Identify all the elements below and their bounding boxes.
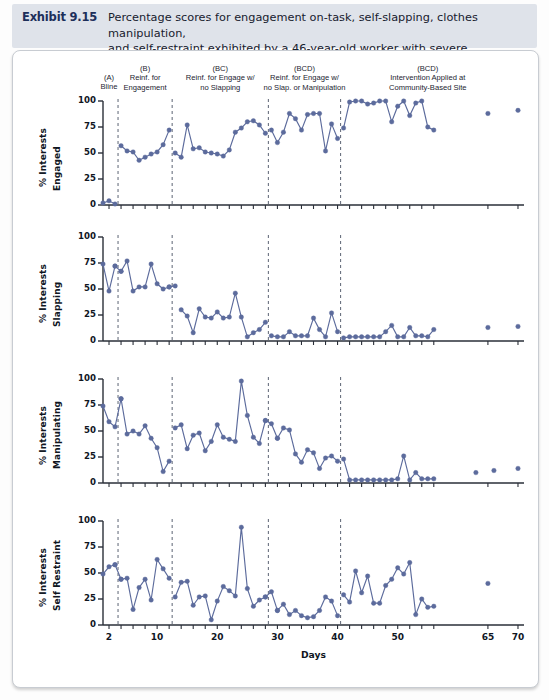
phase-name-4: Intervention Applied at xyxy=(390,73,465,82)
y-tick-label-2-50: 50 xyxy=(63,425,96,435)
x-tick-label-50: 50 xyxy=(382,632,414,642)
y-axis-title-line2-3: Self Restraint xyxy=(52,540,62,611)
y-tick-label-3-25: 25 xyxy=(63,593,96,603)
y-tick-label-0-0: 0 xyxy=(63,199,96,209)
y-tick-label-3-0: 0 xyxy=(63,619,96,629)
phase-name-1: Reinf. for xyxy=(130,73,161,82)
phase-code-3: (BCD) xyxy=(244,64,364,73)
x-tick-label-70: 70 xyxy=(502,632,534,642)
phase-name2-3: no Slap. or Manipulation xyxy=(264,83,346,92)
x-tick-label-20: 20 xyxy=(201,632,233,642)
x-tick-label-40: 40 xyxy=(322,632,354,642)
x-tick-label-30: 30 xyxy=(261,632,293,642)
y-axis-title-line1-0: % Interests xyxy=(38,128,48,187)
phase-name2-2: no Slapping xyxy=(200,83,240,92)
phase-name2-4: Community-Based Site xyxy=(389,83,467,92)
x-tick-label-65: 65 xyxy=(472,632,504,642)
y-tick-label-1-50: 50 xyxy=(63,283,96,293)
y-tick-label-2-100: 100 xyxy=(63,373,96,383)
y-tick-label-0-75: 75 xyxy=(63,121,96,131)
y-tick-label-1-75: 75 xyxy=(63,257,96,267)
phase-heading-3: (BCD)Reinf. for Engage w/no Slap. or Man… xyxy=(244,64,364,92)
x-axis-title: Days xyxy=(292,649,336,660)
phase-name-3: Reinf. for Engage w/ xyxy=(270,73,339,82)
y-tick-label-3-50: 50 xyxy=(63,567,96,577)
y-tick-label-1-25: 25 xyxy=(63,309,96,319)
y-tick-label-2-0: 0 xyxy=(63,477,96,487)
y-tick-label-0-25: 25 xyxy=(63,173,96,183)
y-tick-label-0-50: 50 xyxy=(63,147,96,157)
y-tick-label-0-100: 100 xyxy=(63,95,96,105)
y-tick-label-1-100: 100 xyxy=(63,231,96,241)
y-axis-title-line2-2: Manipulating xyxy=(52,401,62,469)
x-tick-label-10: 10 xyxy=(141,632,173,642)
y-tick-label-3-100: 100 xyxy=(63,515,96,525)
y-axis-title-line1-3: % Interests xyxy=(38,548,48,607)
y-tick-label-1-0: 0 xyxy=(63,335,96,345)
exhibit-banner: Exhibit 9.15 Percentage scores for engag… xyxy=(12,4,537,48)
y-axis-title-line2-1: Slapping xyxy=(52,282,62,327)
phase-heading-4: (BCD)Intervention Applied atCommunity-Ba… xyxy=(368,64,488,92)
y-axis-title-line2-0: Engaged xyxy=(52,146,62,191)
y-axis-title-line1-2: % Interests xyxy=(38,406,48,465)
x-tick-label-2: 2 xyxy=(93,632,125,642)
y-tick-label-2-25: 25 xyxy=(63,451,96,461)
y-axis-title-line1-1: % Interests xyxy=(38,264,48,323)
y-tick-label-3-75: 75 xyxy=(63,541,96,551)
y-tick-label-2-75: 75 xyxy=(63,399,96,409)
figure-page: Exhibit 9.15 Percentage scores for engag… xyxy=(0,0,549,700)
exhibit-title-line1: Percentage scores for engagement on-task… xyxy=(108,10,529,41)
phase-code-4: (BCD) xyxy=(368,64,488,73)
